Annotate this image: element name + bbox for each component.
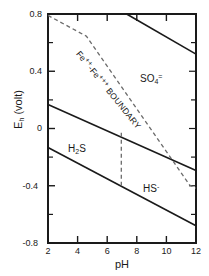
y-axis-label-unit: (volt) [12, 90, 24, 118]
hs-formula-charge: - [157, 183, 159, 190]
series-sulfate-upper-line [127, 14, 196, 54]
x-tick-label-0: 2 [39, 246, 57, 256]
x-tick-label-4: 10 [157, 246, 175, 256]
x-tick-label-2: 6 [98, 246, 116, 256]
y-axis-label-sub: h [18, 118, 25, 122]
x-tick-label-3: 8 [128, 246, 146, 256]
x-major-ticks-top [78, 14, 167, 21]
series-h2s-hs-lower-line [48, 148, 196, 226]
eh-ph-diagram: 0.8 0.4 0 -0.4 -0.8 2 4 6 8 10 12 Eh (vo… [0, 0, 209, 276]
x-major-ticks [48, 236, 196, 243]
hs-region-label: HS- [143, 183, 159, 194]
y-minor-ticks-right [189, 43, 196, 215]
h2s-formula-s: S [79, 143, 86, 154]
sulfate-region-label: SO4= [140, 73, 162, 85]
y-tick-label-0: 0.8 [18, 9, 42, 19]
sulfate-formula-charge: = [158, 73, 162, 80]
h2s-region-label: H2S [68, 143, 86, 155]
x-tick-label-5: 12 [187, 246, 205, 256]
sulfate-formula-base: SO [140, 73, 154, 84]
y-axis-label: Eh (volt) [12, 73, 25, 147]
y-axis-label-main: E [12, 122, 24, 129]
hs-formula-base: HS [143, 183, 157, 194]
plot-svg [0, 0, 209, 276]
x-tick-label-1: 4 [69, 246, 87, 256]
y-tick-label-3: -0.4 [14, 181, 38, 191]
y-major-ticks [48, 14, 55, 243]
x-axis-label: pH [48, 258, 196, 270]
y-tick-label-4: -0.8 [14, 238, 38, 248]
